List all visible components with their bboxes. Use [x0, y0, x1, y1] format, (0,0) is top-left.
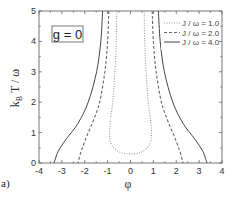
annotation-box: g = 0 [52, 26, 83, 42]
y-tick-label: 1 [31, 128, 36, 138]
legend-label: J / ω = 2.0 [182, 29, 220, 38]
x-tick-label: 0 [128, 166, 133, 176]
phase-diagram-chart: -4-3-2-101234012345 J / ω = 1.0J / ω = 2… [0, 0, 234, 198]
y-tick-label: 4 [31, 36, 36, 46]
x-tick-label: -3 [58, 166, 66, 176]
y-tick-label: 3 [31, 67, 36, 77]
curve-dotted [110, 11, 152, 154]
y-axis-title-text: kB T / ω [8, 69, 24, 108]
y-axis-title: kB T / ω [8, 69, 24, 108]
x-tick-label: 2 [174, 166, 179, 176]
x-tick-label: 4 [219, 166, 224, 176]
y-tick-label: 2 [31, 97, 36, 107]
legend-label: J / ω = 4.0 [182, 38, 220, 47]
legend-label: J / ω = 1.0 [182, 19, 220, 28]
legend: J / ω = 1.0J / ω = 2.0J / ω = 4.0 [161, 18, 220, 50]
x-tick-label: -1 [104, 166, 112, 176]
x-axis-title: φ [125, 177, 132, 191]
x-tick-label: 3 [197, 166, 202, 176]
panel-label: a) [1, 177, 10, 190]
x-tick-label: -4 [35, 166, 43, 176]
x-tick-label: -2 [81, 166, 89, 176]
annotation-text: g = 0 [53, 27, 82, 42]
x-tick-label: 1 [151, 166, 156, 176]
y-tick-label: 0 [31, 158, 36, 168]
y-tick-label: 5 [31, 6, 36, 16]
